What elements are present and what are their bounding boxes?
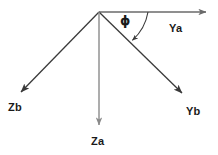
angle-arc-phi xyxy=(132,12,148,40)
vector-zb-line xyxy=(21,12,99,92)
axis-label-za: Za xyxy=(91,136,104,147)
axis-label-ya: Ya xyxy=(169,23,182,34)
vector-diagram: Ya Yb Zb Za ϕ xyxy=(0,0,218,155)
vector-diagram-canvas xyxy=(0,0,218,155)
angle-symbol-phi: ϕ xyxy=(120,14,130,27)
axis-label-yb: Yb xyxy=(186,106,200,117)
axis-label-zb: Zb xyxy=(8,102,22,113)
